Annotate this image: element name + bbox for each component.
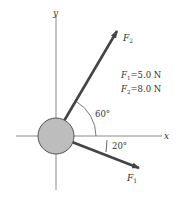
y-axis-label: y [52, 8, 59, 18]
force-label-f1: F1 [126, 173, 137, 184]
force-diagram: y x 60° 20° F2 F1 F1=5.0 N F2=8.0 N [0, 0, 180, 197]
force-label-f2: F2 [122, 33, 133, 44]
angle-label-20: 20° [112, 141, 127, 151]
object-circle [38, 118, 74, 154]
force-arrow-f1 [72, 142, 139, 168]
legend-f2: F2=8.0 N [120, 84, 162, 95]
angle-mark-20 [106, 140, 107, 152]
legend-f1: F1=5.0 N [120, 70, 162, 81]
angle-label-60: 60° [95, 109, 110, 119]
angle-arc-60 [76, 101, 96, 136]
x-axis-label: x [164, 131, 169, 141]
force-arrow-f2 [64, 31, 117, 121]
